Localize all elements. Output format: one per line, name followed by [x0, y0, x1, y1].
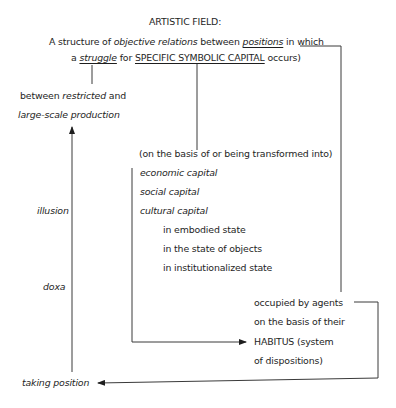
specific-symbolic-capital-term: SPECIFIC SYMBOLIC CAPITAL: [135, 52, 265, 63]
taking-position-label: taking position: [22, 377, 89, 389]
diagram-title: ARTISTIC FIELD:: [149, 16, 221, 28]
positions-term: positions: [243, 36, 284, 47]
capital-type-economic: economic capital: [140, 167, 217, 179]
struggle-term: struggle: [79, 52, 116, 63]
definition-line-1: A structure of objective relations betwe…: [49, 36, 324, 48]
capital-type-social: social capital: [140, 186, 199, 198]
objective-relations-term: objective relations: [114, 36, 198, 47]
definition-line-2: a struggle for SPECIFIC SYMBOLIC CAPITAL…: [71, 52, 301, 64]
habitus-line: HABITUS (system: [254, 336, 333, 348]
doxa-label: doxa: [43, 281, 65, 293]
cultural-state-embodied: in embodied state: [163, 224, 246, 236]
agents-line-4: of dispositions): [254, 355, 323, 367]
illusion-label: illusion: [37, 205, 69, 217]
cultural-state-objects: in the state of objects: [163, 243, 262, 255]
capital-type-cultural: cultural capital: [140, 205, 208, 217]
positions-connector: [300, 46, 341, 292]
cultural-state-institutionalized: in institutionalized state: [163, 262, 272, 274]
capital-intro: (on the basis of or being transformed in…: [139, 148, 332, 160]
agents-line-2: on the basis of their: [254, 316, 345, 328]
production-line-1: between restricted and: [20, 90, 126, 102]
production-line-2: large-scale production: [18, 109, 120, 121]
agents-line-1: occupied by agents: [254, 297, 343, 309]
